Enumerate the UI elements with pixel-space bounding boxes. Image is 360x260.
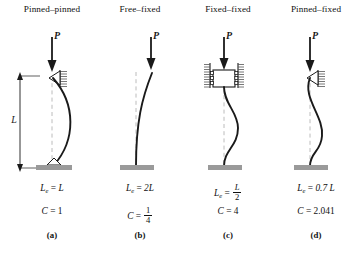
hatched-wall-a (60, 70, 67, 87)
load-label-d: P (312, 30, 318, 41)
c-eq-b: = (136, 211, 141, 221)
hatched-wall-d (318, 70, 325, 87)
c-fraction-b: 1 4 (144, 206, 152, 225)
load-arrow-b (147, 37, 156, 70)
hatched-wall-right-c (238, 63, 244, 88)
effective-length-formula-a: Le = L (8, 183, 96, 194)
base-plate-b (120, 165, 154, 170)
le-value-b: 2L (144, 183, 154, 193)
load-arrow-c (220, 37, 229, 70)
column-art-c (184, 0, 272, 180)
base-plate-d (294, 165, 328, 170)
guided-block-c (213, 70, 235, 87)
panel-label-d: (d) (272, 230, 360, 240)
le-value-d: 0.7 L (315, 183, 334, 193)
constant-formula-a: C = 1 (8, 206, 96, 216)
load-label-a: P (54, 30, 60, 41)
buckled-shape-a (53, 78, 70, 165)
base-plate-c (208, 165, 242, 170)
le-sub-a: e (46, 187, 49, 194)
c-eq-a: = (50, 206, 55, 216)
c-symbol-a: C (42, 206, 48, 216)
panel-label-a: (a) (8, 230, 96, 240)
c-denominator-b: 4 (144, 216, 152, 225)
le-eq-c: = (225, 188, 230, 198)
c-eq-d: = (306, 206, 311, 216)
c-symbol-b: C (127, 211, 133, 221)
column-art-a (8, 0, 96, 180)
buckled-shape-c (224, 87, 238, 166)
le-eq-b: = (136, 183, 141, 193)
c-eq-c: = (226, 206, 231, 216)
constant-formula-d: C = 2.041 (272, 206, 360, 216)
le-eq-a: = (51, 183, 56, 193)
c-value-a: 1 (58, 206, 63, 216)
load-arrow-d (306, 37, 315, 72)
buckled-shape-b (136, 73, 152, 166)
panel-label-c: (c) (184, 230, 272, 240)
panel-label-b: (b) (96, 230, 184, 240)
c-value-c: 4 (234, 206, 239, 216)
c-value-d: 2.041 (314, 206, 335, 216)
panel-pinned-pinned: Pinned–pinned (8, 0, 96, 260)
c-symbol-d: C (297, 206, 303, 216)
c-symbol-c: C (218, 206, 224, 216)
base-plate-a (36, 165, 72, 170)
effective-length-formula-c: Le = L 2 (184, 183, 272, 202)
column-art-b (96, 0, 184, 180)
effective-length-formula-d: Le = 0.7 L (272, 183, 360, 194)
effective-length-formula-b: Le = 2L (96, 183, 184, 194)
le-denominator-c: 2 (233, 193, 242, 202)
panel-free-fixed: Free–fixed Le = 2L C = 1 4 (b) (96, 0, 184, 260)
load-arrow-a (48, 37, 57, 72)
le-eq-d: = (308, 183, 313, 193)
le-sub-d: e (303, 187, 306, 194)
le-sub-b: e (131, 187, 134, 194)
le-sub-c: e (219, 192, 222, 199)
le-value-a: L (58, 183, 63, 193)
hatched-wall-left-c (204, 63, 210, 88)
load-label-c: P (226, 30, 232, 41)
constant-formula-b: C = 1 4 (96, 206, 184, 225)
le-fraction-c: L 2 (233, 183, 242, 202)
load-label-b: P (153, 30, 159, 41)
pin-support-top-a (49, 71, 60, 85)
constant-formula-c: C = 4 (184, 206, 272, 216)
column-art-d (272, 0, 360, 180)
column-end-conditions-figure: L Pinned–pinned (0, 0, 360, 260)
